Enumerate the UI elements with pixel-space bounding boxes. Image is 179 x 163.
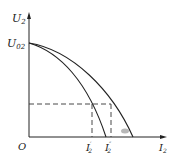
smudge-mark — [121, 129, 129, 134]
outer-curve — [29, 43, 133, 137]
x-axis-arrow-icon — [160, 135, 167, 139]
x-axis-label: I2 — [158, 142, 167, 154]
origin-label: O — [18, 141, 26, 152]
inner-curve — [29, 43, 106, 137]
diagram-canvas: U2 U02 O I′2 I″2 I2 — [0, 0, 179, 163]
u02-label: U02 — [7, 37, 26, 51]
y-axis-arrow-icon — [27, 12, 31, 19]
i2-dprime-label: I″2 — [104, 140, 112, 154]
y-axis-label: U2 — [12, 12, 26, 26]
i2-prime-label: I′2 — [85, 140, 92, 154]
